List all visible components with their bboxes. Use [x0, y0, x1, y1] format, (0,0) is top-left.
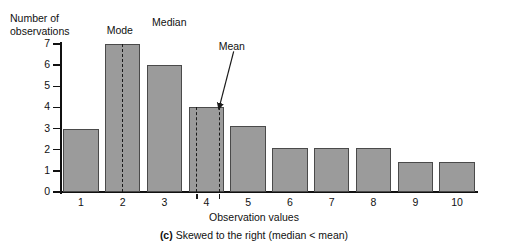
x-axis-tick-label: 10 — [442, 196, 472, 208]
y-axis-tick — [53, 170, 61, 172]
x-axis-tick-label: 3 — [150, 196, 180, 208]
caption-prefix: (c) — [160, 229, 173, 241]
stat-axis-tick-median — [196, 194, 197, 199]
histogram-bar — [147, 65, 182, 192]
histogram-bar — [230, 126, 265, 192]
y-axis-tick — [53, 86, 61, 88]
x-axis-tick-label: 2 — [108, 196, 138, 208]
figure-caption: (c) Skewed to the right (median < mean) — [0, 229, 508, 241]
stat-axis-tick-mean — [219, 194, 220, 199]
stat-line-median — [196, 107, 197, 192]
y-axis-tick-label: 2 — [18, 143, 50, 155]
y-axis-tick-label: 7 — [18, 37, 50, 49]
x-axis-title: Observation values — [0, 211, 508, 223]
histogram-bar — [439, 162, 474, 192]
histogram-bar — [272, 148, 307, 192]
mean-arrow-icon — [0, 0, 508, 247]
stat-label-mean: Mean — [218, 40, 246, 52]
x-axis-tick-label: 6 — [275, 196, 305, 208]
x-axis-tick-label: 5 — [233, 196, 263, 208]
y-axis-tick-label: 1 — [18, 164, 50, 176]
y-axis-tick — [53, 107, 61, 109]
histogram-bar — [63, 129, 98, 192]
stat-label-median: Median — [151, 16, 187, 28]
stat-line-mode — [122, 44, 123, 192]
histogram-bar — [356, 148, 391, 192]
stat-line-mean — [219, 107, 220, 192]
x-axis-tick-label: 8 — [359, 196, 389, 208]
y-axis-tick — [53, 64, 61, 66]
stat-label-mode: Mode — [106, 24, 134, 36]
y-axis-tick — [53, 191, 61, 193]
histogram-figure: Number of observations 01234567 12345678… — [0, 0, 508, 247]
histogram-bar — [314, 148, 349, 192]
x-axis-tick-label: 1 — [66, 196, 96, 208]
y-axis-tick — [53, 128, 61, 130]
x-axis-tick-label: 9 — [400, 196, 430, 208]
y-axis-tick-label: 5 — [18, 79, 50, 91]
y-axis-tick — [53, 43, 61, 45]
y-axis-tick-label: 0 — [18, 185, 50, 197]
y-axis-tick-label: 6 — [18, 58, 50, 70]
y-axis-tick-label: 3 — [18, 122, 50, 134]
y-axis-title: Number of observations — [10, 12, 70, 37]
histogram-bar — [398, 162, 433, 192]
y-axis-tick — [53, 149, 61, 151]
y-axis-title-line1: Number of — [10, 12, 70, 25]
y-axis-title-line2: observations — [10, 25, 70, 38]
x-axis-tick-label: 7 — [317, 196, 347, 208]
caption-text: Skewed to the right (median < mean) — [176, 229, 348, 241]
y-axis-tick-label: 4 — [18, 100, 50, 112]
